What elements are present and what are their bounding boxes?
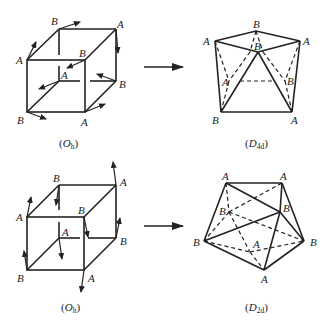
- caption-d4d: (D4d): [245, 137, 268, 151]
- vertex-label: A: [116, 18, 124, 30]
- vertex-label: A: [87, 272, 95, 284]
- cube-oh-top: A B B A B A B A (Oh): [15, 15, 126, 151]
- vertex-label: B: [283, 202, 290, 214]
- vertex-label: B: [17, 272, 24, 284]
- vertex-label: B: [119, 78, 126, 90]
- vertex-label: A: [60, 69, 68, 81]
- vertex-label: A: [260, 273, 268, 285]
- vertex-label: A: [279, 170, 287, 182]
- vertex-label: A: [221, 170, 229, 182]
- vertex-label: B: [253, 18, 260, 30]
- vertex-label: B: [287, 75, 294, 87]
- vertex-label: A: [202, 35, 210, 47]
- vertex-label: B: [17, 114, 24, 126]
- caption-d2d: (D2d): [245, 301, 268, 315]
- polyhedron-d2d: A A B B B B A A (D2d): [193, 170, 317, 315]
- vertex-label: B: [53, 172, 60, 184]
- vertex-label: A: [221, 76, 229, 88]
- vertex-label: B: [310, 236, 317, 248]
- caption-oh-top: (Oh): [59, 137, 78, 151]
- vertex-label: A: [119, 176, 127, 188]
- cube-oh-bottom: A B B A B A B A (Oh): [15, 162, 127, 315]
- vertex-label: A: [15, 211, 23, 223]
- vertex-label: A: [290, 114, 298, 126]
- vertex-label: B: [51, 15, 58, 27]
- vertex-label: B: [120, 235, 127, 247]
- polyhedron-d4d: A B A B B A A B (D4d): [202, 18, 310, 151]
- vertex-label: B: [219, 205, 226, 217]
- caption-oh-bottom: (Oh): [61, 301, 80, 315]
- vertex-label: A: [80, 116, 88, 128]
- vertex-label: B: [79, 47, 86, 59]
- vertex-label: B: [193, 236, 200, 248]
- symmetry-diagram: A B B A B A B A (Oh) A B A B: [0, 0, 331, 329]
- vertex-label: A: [302, 35, 310, 47]
- vertex-label: B: [254, 40, 261, 52]
- vertex-label: A: [15, 54, 23, 66]
- vertex-label: A: [252, 238, 260, 250]
- vertex-label: A: [61, 226, 69, 238]
- vertex-label: B: [212, 114, 219, 126]
- vertex-label: B: [78, 204, 85, 216]
